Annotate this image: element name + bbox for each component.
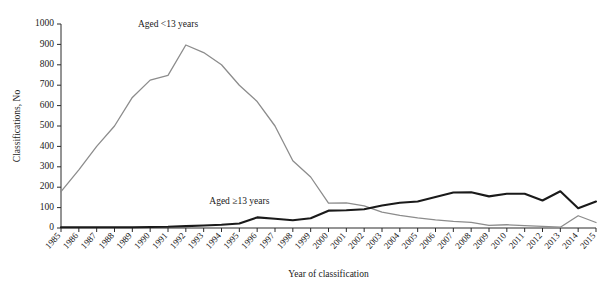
y-tick-label: 600 [40,100,55,110]
x-tick-label: 2013 [542,230,562,250]
series-line-0 [61,45,596,227]
x-tick-label: 1987 [79,230,99,250]
x-tick-label: 1994 [204,230,224,250]
y-tick-label: 800 [40,59,55,69]
y-tick-label: 400 [40,141,55,151]
y-tick-label: 1000 [35,18,54,28]
x-tick-label: 2012 [525,231,544,251]
x-tick-label: 2000 [311,230,331,250]
y-tick-label: 900 [40,39,55,49]
series-annotation-0: Aged <13 years [138,19,199,29]
x-tick-label: 2008 [453,230,473,250]
x-tick-label: 2015 [578,230,598,250]
x-tick-label: 2005 [400,230,420,250]
y-tick-label: 500 [40,120,55,130]
x-tick-label: 1988 [97,230,117,250]
chart-container: 0100200300400500600700800900100019851986… [0,0,604,289]
x-tick-label: 2002 [346,231,365,251]
x-tick-label: 2006 [418,230,438,250]
x-tick-label: 1999 [293,230,313,250]
series-annotation-1: Aged ≥13 years [209,196,269,206]
x-tick-label: 1997 [257,230,277,250]
y-tick-label: 100 [40,202,55,212]
x-tick-label: 1985 [43,230,63,250]
x-tick-label: 1993 [186,230,206,250]
x-tick-label: 1991 [150,231,169,251]
x-tick-label: 2007 [435,230,455,250]
x-axis-title: Year of classification [288,269,369,279]
x-tick-label: 2009 [471,230,491,250]
x-tick-label: 1996 [239,230,259,250]
x-tick-label: 1989 [114,230,134,250]
x-tick-label: 1986 [61,230,81,250]
x-tick-label: 1998 [275,230,295,250]
x-tick-label: 2010 [489,230,509,250]
y-axis-title: Classifications, No [12,90,22,163]
y-tick-label: 700 [40,79,55,89]
y-tick-label: 300 [40,161,55,171]
x-tick-label: 2014 [560,230,580,250]
x-tick-label: 1992 [168,231,187,251]
line-chart: 0100200300400500600700800900100019851986… [0,0,604,289]
x-tick-label: 1990 [132,230,152,250]
x-tick-label: 2004 [382,230,402,250]
series-line-1 [61,191,596,227]
x-tick-label: 2011 [507,231,526,251]
y-tick-label: 200 [40,181,55,191]
x-tick-label: 2003 [364,230,384,250]
y-tick-label: 0 [49,222,54,232]
x-tick-label: 2001 [328,231,347,251]
x-tick-label: 1995 [221,230,241,250]
